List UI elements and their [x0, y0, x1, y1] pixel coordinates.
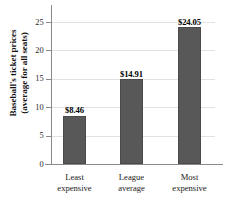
- ytick-mark-25: [46, 22, 52, 23]
- category-label-most-expensive-line2: expensive: [159, 183, 221, 194]
- ytick-mark-20: [46, 50, 52, 51]
- ytick-label-15: 15: [22, 74, 44, 83]
- ytick-label-25: 25: [22, 18, 44, 27]
- ytick-mark-15: [46, 79, 52, 80]
- category-label-league-average: League average: [101, 172, 163, 193]
- bar-least-expensive: [63, 116, 86, 164]
- plot-area: [52, 22, 215, 164]
- category-label-least-expensive: Least expensive: [44, 172, 106, 193]
- ytick-label-10: 10: [22, 103, 44, 112]
- category-label-most-expensive-line1: Most: [159, 172, 221, 183]
- bar-most-expensive: [178, 27, 201, 164]
- category-label-most-expensive: Most expensive: [159, 172, 221, 193]
- value-label-most-expensive: $24.05: [164, 17, 216, 27]
- category-label-least-expensive-line2: expensive: [44, 183, 106, 194]
- value-label-least-expensive: $8.46: [49, 105, 101, 115]
- ytick-mark-0: [46, 164, 52, 165]
- bar-league-average: [120, 79, 143, 164]
- x-axis-line: [45, 164, 223, 165]
- bar-chart: Baseball's ticket prices (average for al…: [0, 0, 227, 202]
- ytick-label-20: 20: [22, 46, 44, 55]
- y-axis-title-line1: Baseball's ticket prices: [8, 0, 19, 148]
- value-label-league-average: $14.91: [106, 69, 158, 79]
- ytick-label-0: 0: [22, 160, 44, 169]
- category-label-league-average-line2: average: [101, 183, 163, 194]
- category-label-league-average-line1: League: [101, 172, 163, 183]
- ytick-label-5: 5: [22, 131, 44, 140]
- category-label-least-expensive-line1: Least: [44, 172, 106, 183]
- ytick-mark-5: [46, 136, 52, 137]
